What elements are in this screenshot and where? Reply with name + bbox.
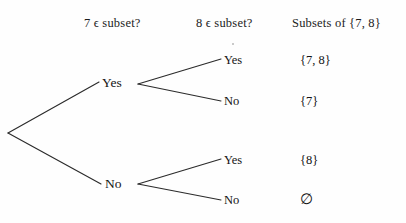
tree-node-level2-yes-yes: Yes [224, 54, 242, 67]
edge-yes-to-no [138, 84, 221, 101]
tree-node-level2-no-no: No [224, 194, 239, 207]
tree-edges [0, 0, 406, 223]
tree-node-level1-yes: Yes [102, 76, 122, 90]
decision-tree-figure: 7 ϵ subset? 8 ϵ subset? Subsets of {7, 8… [0, 0, 406, 223]
column-header-subsets: Subsets of {7, 8} [292, 17, 381, 30]
edge-no-to-no [138, 184, 221, 200]
edge-no-to-yes [138, 159, 221, 184]
edge-root-to-no [8, 133, 101, 184]
outcome-subset-7: {7} [300, 95, 318, 108]
edge-root-to-yes [8, 82, 99, 133]
scan-artifact-speck [232, 43, 234, 45]
outcome-subset-8: {8} [300, 154, 318, 167]
outcome-empty-set: ∅ [300, 192, 313, 207]
edge-yes-to-yes [138, 59, 221, 84]
tree-node-level2-yes-no: No [224, 95, 239, 108]
outcome-subset-7-8: {7, 8} [300, 54, 331, 67]
tree-node-level2-no-yes: Yes [224, 154, 242, 167]
column-header-first-element: 7 ϵ subset? [84, 17, 141, 30]
tree-node-level1-no: No [105, 177, 122, 191]
column-header-second-element: 8 ϵ subset? [196, 17, 253, 30]
